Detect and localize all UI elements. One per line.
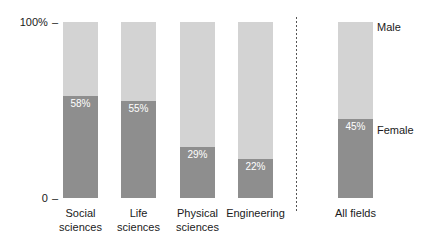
- category-label-life-sciences: Life sciences: [106, 206, 171, 234]
- category-label-line1: Engineering: [218, 206, 293, 220]
- y-axis-top-tick-label: 100%–: [2, 17, 58, 28]
- category-label-line1: Social: [48, 206, 113, 220]
- category-label-all-fields: All fields: [323, 206, 388, 220]
- bar-engineering: 22%: [238, 22, 273, 198]
- bar-stack-life-sciences: 55%: [121, 22, 156, 198]
- segment-male-social-sciences: [63, 22, 98, 96]
- segment-male-all-fields: [338, 22, 373, 119]
- bar-stack-all-fields: 45%: [338, 22, 373, 198]
- segment-female-engineering: 22%: [238, 159, 273, 198]
- y-axis-bottom-tick-value: 0: [42, 192, 48, 204]
- segment-female-life-sciences: 55%: [121, 101, 156, 198]
- legend-label-female: Female: [377, 124, 414, 136]
- bar-stack-physical-sciences: 29%: [180, 22, 215, 198]
- bar-social-sciences: 58%: [63, 22, 98, 198]
- bar-all-fields: 45%: [338, 22, 373, 198]
- bar-physical-sciences: 29%: [180, 22, 215, 198]
- segment-female-physical-sciences: 29%: [180, 147, 215, 198]
- category-label-line2: sciences: [165, 220, 230, 234]
- stacked-bar-chart: 100%– 0– 58% Social sciences 55% Life sc…: [0, 0, 432, 249]
- section-divider: [296, 17, 297, 211]
- segment-female-all-fields: 45%: [338, 119, 373, 198]
- segment-male-life-sciences: [121, 22, 156, 101]
- category-label-line2: sciences: [48, 220, 113, 234]
- y-axis-bottom-tick-label: 0–: [2, 193, 58, 204]
- legend-label-male: Male: [377, 21, 401, 33]
- value-label-life-sciences: 55%: [121, 103, 156, 115]
- bar-stack-social-sciences: 58%: [63, 22, 98, 198]
- value-label-physical-sciences: 29%: [180, 149, 215, 161]
- y-axis-bottom-tick-mark: –: [52, 193, 58, 204]
- segment-female-social-sciences: 58%: [63, 96, 98, 198]
- segment-male-physical-sciences: [180, 22, 215, 147]
- value-label-engineering: 22%: [238, 161, 273, 173]
- value-label-all-fields: 45%: [338, 121, 373, 133]
- bar-life-sciences: 55%: [121, 22, 156, 198]
- bar-stack-engineering: 22%: [238, 22, 273, 198]
- segment-male-engineering: [238, 22, 273, 159]
- category-label-engineering: Engineering: [218, 206, 293, 220]
- y-axis-top-tick-mark: –: [52, 17, 58, 28]
- y-axis-top-tick-value: 100%: [20, 16, 48, 28]
- category-label-line1: All fields: [323, 206, 388, 220]
- value-label-social-sciences: 58%: [63, 98, 98, 110]
- category-label-line1: Life: [106, 206, 171, 220]
- category-label-social-sciences: Social sciences: [48, 206, 113, 234]
- category-label-line2: sciences: [106, 220, 171, 234]
